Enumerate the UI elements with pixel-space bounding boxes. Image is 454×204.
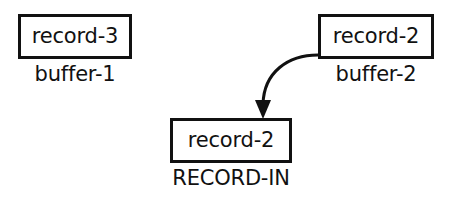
- node-buffer-2-box: record-2: [318, 14, 434, 59]
- node-buffer-1-box: record-3: [18, 14, 132, 59]
- node-buffer-1-box-label: record-3: [32, 26, 118, 47]
- node-buffer-1-caption: buffer-1: [8, 64, 142, 85]
- node-record-in-box: record-2: [170, 118, 292, 163]
- node-record-in-box-label: record-2: [188, 130, 274, 151]
- node-buffer-2-box-label: record-2: [333, 26, 419, 47]
- node-record-in-caption: RECORD-IN: [156, 168, 306, 189]
- edge-buffer2-to-record-in-arrowhead-icon: [255, 100, 271, 119]
- node-buffer-2-caption: buffer-2: [308, 64, 444, 85]
- diagram-canvas: record-3 buffer-1 record-2 buffer-2 reco…: [0, 0, 454, 204]
